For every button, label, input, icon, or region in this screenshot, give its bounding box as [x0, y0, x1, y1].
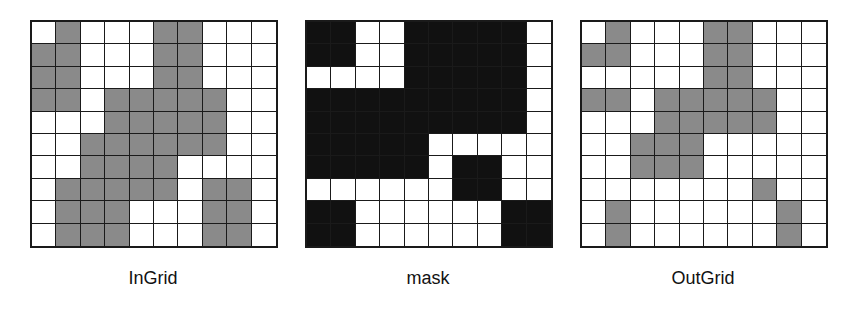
- grid-cell: [405, 179, 429, 201]
- grid-cell: [753, 22, 777, 44]
- grid-cell: [252, 134, 276, 156]
- grid-cell: [178, 134, 202, 156]
- grid-cell: [32, 112, 56, 134]
- grid-cell: [606, 89, 630, 111]
- grid-cell: [56, 201, 80, 223]
- grid-cell: [32, 156, 56, 178]
- grid-cell: [130, 134, 154, 156]
- grid-cell: [753, 44, 777, 66]
- grid-cell: [227, 67, 251, 89]
- grid-cell: [802, 134, 826, 156]
- grid-cell: [307, 67, 331, 89]
- grid-cell: [380, 44, 404, 66]
- grid-cell: [356, 89, 380, 111]
- grid-cell: [227, 22, 251, 44]
- grid-cell: [680, 224, 704, 246]
- grid-cell: [56, 44, 80, 66]
- grid-cell: [704, 22, 728, 44]
- grid-cell: [178, 22, 202, 44]
- grid-cell: [502, 224, 526, 246]
- grid-cell: [227, 134, 251, 156]
- grid-cell: [429, 156, 453, 178]
- grid-cell: [227, 201, 251, 223]
- grid-cell: [728, 134, 752, 156]
- grid-cell: [728, 112, 752, 134]
- grid-cell: [704, 201, 728, 223]
- grid-cell: [227, 179, 251, 201]
- grid-cell: [728, 156, 752, 178]
- ingrid-label: InGrid: [30, 268, 276, 289]
- grid-cell: [527, 67, 551, 89]
- grid-cell: [704, 134, 728, 156]
- grid-cell: [331, 89, 355, 111]
- grid-cell: [356, 201, 380, 223]
- grid-cell: [252, 67, 276, 89]
- grid-cell: [154, 134, 178, 156]
- grid-cell: [728, 89, 752, 111]
- grid-cell: [429, 224, 453, 246]
- grid-cell: [405, 22, 429, 44]
- grid-cell: [105, 134, 129, 156]
- grid-cell: [356, 179, 380, 201]
- grid-cell: [130, 22, 154, 44]
- grid-cell: [631, 156, 655, 178]
- grid-cell: [777, 179, 801, 201]
- grid-cell: [380, 112, 404, 134]
- grid-cell: [453, 112, 477, 134]
- grid-cell: [331, 22, 355, 44]
- grid-cell: [478, 44, 502, 66]
- grid-cell: [802, 44, 826, 66]
- grid-cell: [582, 134, 606, 156]
- grid-cell: [777, 22, 801, 44]
- grid-cell: [380, 156, 404, 178]
- grid-cell: [56, 224, 80, 246]
- grid-cell: [802, 22, 826, 44]
- grid-cell: [502, 201, 526, 223]
- grid-cell: [704, 67, 728, 89]
- grid-cell: [606, 134, 630, 156]
- grid-cell: [56, 112, 80, 134]
- grid-cell: [502, 89, 526, 111]
- grid-cell: [154, 112, 178, 134]
- grid-cell: [802, 89, 826, 111]
- grid-cell: [32, 179, 56, 201]
- grid-cell: [582, 201, 606, 223]
- grid-cell: [777, 201, 801, 223]
- grid-cell: [356, 134, 380, 156]
- grid-cell: [356, 44, 380, 66]
- grid-cell: [453, 179, 477, 201]
- grid-cell: [356, 67, 380, 89]
- grid-cell: [203, 67, 227, 89]
- grid-cell: [105, 156, 129, 178]
- grid-cell: [704, 224, 728, 246]
- grid-cell: [453, 67, 477, 89]
- grid-cell: [655, 224, 679, 246]
- grid-cell: [582, 67, 606, 89]
- grid-cell: [105, 179, 129, 201]
- grid-cell: [655, 22, 679, 44]
- grid-cell: [307, 156, 331, 178]
- grid-cell: [203, 224, 227, 246]
- grid-cell: [582, 22, 606, 44]
- grid-cell: [405, 112, 429, 134]
- grid-cell: [227, 44, 251, 66]
- grid-cell: [502, 156, 526, 178]
- grid-cell: [227, 112, 251, 134]
- grid-cell: [606, 179, 630, 201]
- grid-cell: [478, 201, 502, 223]
- grid-cell: [178, 201, 202, 223]
- grid-cell: [631, 134, 655, 156]
- grid-cell: [380, 134, 404, 156]
- grid-cell: [32, 22, 56, 44]
- grid-cell: [154, 89, 178, 111]
- grid-cell: [631, 201, 655, 223]
- grid-cell: [606, 44, 630, 66]
- grid-cell: [56, 156, 80, 178]
- grid-cell: [130, 156, 154, 178]
- grid-cell: [307, 179, 331, 201]
- grid-cell: [81, 67, 105, 89]
- grid-cell: [502, 22, 526, 44]
- grid-cell: [178, 156, 202, 178]
- grid-cell: [582, 179, 606, 201]
- grid-cell: [307, 89, 331, 111]
